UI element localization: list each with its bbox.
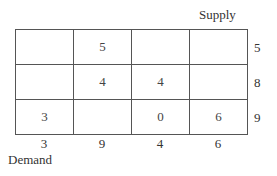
supply-label: Supply bbox=[199, 7, 236, 22]
demand-value: 4 bbox=[131, 136, 189, 152]
table-row: 3 0 6 bbox=[16, 100, 248, 135]
supply-value: 8 bbox=[254, 75, 261, 91]
cell bbox=[190, 65, 248, 100]
demand-value: 3 bbox=[15, 136, 73, 152]
cell: 4 bbox=[74, 65, 132, 100]
cell: 3 bbox=[16, 100, 74, 135]
cell bbox=[16, 30, 74, 65]
demand-value: 6 bbox=[189, 136, 247, 152]
cell bbox=[74, 100, 132, 135]
supply-value: 9 bbox=[254, 110, 261, 126]
transportation-table: 5 4 4 3 0 6 bbox=[15, 29, 248, 135]
cell: 0 bbox=[132, 100, 190, 135]
cell bbox=[16, 65, 74, 100]
table-row: 5 bbox=[16, 30, 248, 65]
cell bbox=[132, 30, 190, 65]
supply-value: 5 bbox=[254, 40, 261, 56]
cell bbox=[190, 30, 248, 65]
cell: 4 bbox=[132, 65, 190, 100]
demand-value: 9 bbox=[73, 136, 131, 152]
demand-label: Demand bbox=[8, 152, 52, 167]
cell: 5 bbox=[74, 30, 132, 65]
table-row: 4 4 bbox=[16, 65, 248, 100]
cell: 6 bbox=[190, 100, 248, 135]
